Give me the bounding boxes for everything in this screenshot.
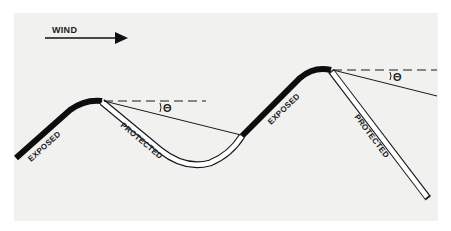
wind-label: WIND [52,25,77,35]
ridge1-theta-label: Θ [163,102,172,114]
wind-slope-diagram: WIND Θ Θ EXPOSED PROTECTED EXPOSED PR [0,0,451,231]
ridge1-protected-label: PROTECTED [119,121,165,161]
ridge1-exposed-slope [16,101,102,158]
diagram-page: WIND Θ Θ EXPOSED PROTECTED EXPOSED PR [0,0,451,231]
ridge2-theta-label: Θ [393,71,402,83]
